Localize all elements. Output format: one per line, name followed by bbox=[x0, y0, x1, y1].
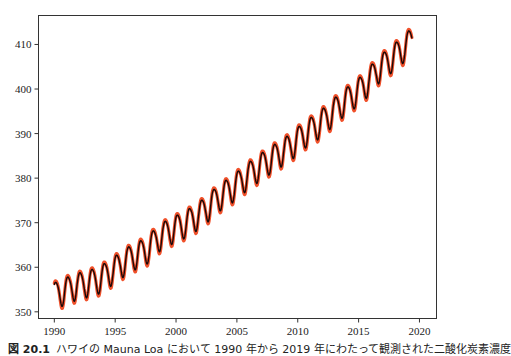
y-tick-label: 360 bbox=[15, 261, 32, 273]
x-tick-label: 1995 bbox=[104, 325, 127, 337]
x-tick-label: 2000 bbox=[165, 325, 188, 337]
x-tick-label: 1990 bbox=[43, 325, 66, 337]
y-tick-label: 370 bbox=[15, 217, 32, 229]
y-tick-label: 400 bbox=[15, 83, 32, 95]
x-axis: 1990199520002005201020152020 bbox=[43, 319, 431, 337]
x-tick-label: 2015 bbox=[348, 325, 371, 337]
y-tick-label: 350 bbox=[15, 306, 32, 318]
plot-area bbox=[54, 29, 412, 308]
fit-series-line bbox=[54, 31, 412, 307]
x-tick-label: 2005 bbox=[226, 325, 249, 337]
x-tick-label: 2010 bbox=[287, 325, 310, 337]
caption-text: ハワイの Mauna Loa において 1990 年から 2019 年にわたって… bbox=[56, 343, 511, 356]
figure-caption: 図 20.1ハワイの Mauna Loa において 1990 年から 2019 … bbox=[8, 340, 511, 356]
y-tick-label: 390 bbox=[15, 128, 32, 140]
y-tick-label: 380 bbox=[15, 172, 32, 184]
plot-frame bbox=[39, 16, 437, 319]
x-tick-label: 2020 bbox=[408, 325, 431, 337]
observed-series-line bbox=[54, 29, 412, 308]
figure-number: 図 20.1 bbox=[8, 343, 50, 356]
y-tick-label: 410 bbox=[15, 38, 32, 50]
co2-chart: 1990199520002005201020152020 35036037038… bbox=[0, 0, 452, 336]
y-axis: 350360370380390400410 bbox=[15, 38, 39, 317]
